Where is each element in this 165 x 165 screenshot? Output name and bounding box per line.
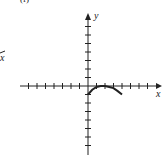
coordinate-plot <box>0 0 165 165</box>
left-axis-fragment <box>0 51 5 53</box>
y-axis-label: y <box>94 10 98 21</box>
y-axis-arrow-icon <box>85 13 91 20</box>
x-axis-label: x <box>156 88 160 99</box>
